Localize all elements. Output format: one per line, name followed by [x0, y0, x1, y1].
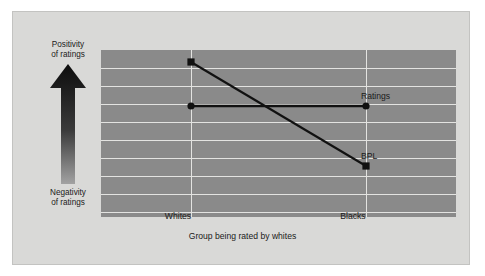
y-axis-bottom-label: Negativity of ratings — [37, 188, 99, 208]
figure-root: Positivity of ratings Negativity of rati… — [0, 0, 485, 276]
x-axis-title: Group being rated by whites — [0, 231, 485, 241]
series-bpl — [187, 58, 369, 169]
xtick-label-whites: Whites — [165, 211, 191, 221]
plot-area — [101, 50, 456, 217]
series-ratings — [187, 102, 369, 109]
xtick-label-blacks: Blacks — [340, 211, 365, 221]
series-label-ratings: Ratings — [361, 91, 390, 101]
y-axis-top-label: Positivity of ratings — [37, 40, 99, 60]
figure-card: Positivity of ratings Negativity of rati… — [12, 11, 470, 265]
series-label-bpl: BPL — [361, 151, 377, 161]
series-layer — [101, 50, 456, 217]
up-arrow-icon — [50, 64, 86, 184]
y-axis-direction-annotation: Positivity of ratings Negativity of rati… — [37, 40, 99, 208]
